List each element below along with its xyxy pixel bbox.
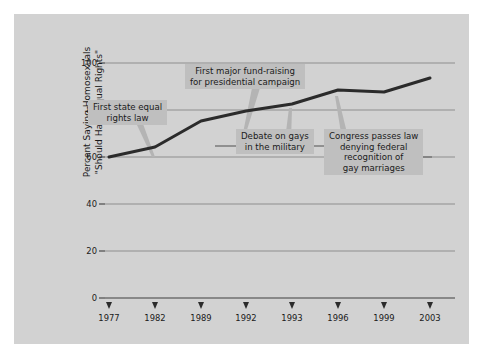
x-tick-label-1977: 1977	[89, 313, 129, 323]
annotation-line: recognition of	[329, 152, 418, 163]
x-tick-marks	[106, 302, 433, 309]
annotation-line: First major fund-raising	[190, 66, 300, 77]
y-tick-label-20: 20	[73, 246, 97, 256]
x-tick-label-1999: 1999	[364, 313, 404, 323]
annotation-first-state-equal-rights-law: First state equal rights law	[88, 100, 167, 125]
annotation-debate-on-gays-in-the-military: Debate on gays in the military	[236, 129, 314, 154]
annotation-line: Congress passes law	[329, 131, 418, 142]
chart-figure: 100 80 60 40 20 0 Percent Saying Homosex…	[0, 0, 482, 357]
annotation-congress-passes-law: Congress passes law denying federal reco…	[324, 129, 423, 175]
chart-plot-area	[0, 0, 482, 357]
x-tick-label-1992: 1992	[226, 313, 266, 323]
y-tick-label-40: 40	[73, 199, 97, 209]
annotation-line: rights law	[93, 113, 162, 124]
x-tick-label-1996: 1996	[318, 313, 358, 323]
annotation-line: for presidential campaign	[190, 77, 300, 88]
annotation-line: First state equal	[93, 102, 162, 113]
x-tick-label-1993: 1993	[272, 313, 312, 323]
annotation-line: in the military	[241, 142, 309, 153]
x-tick-label-1989: 1989	[181, 313, 221, 323]
x-tick-label-1982: 1982	[135, 313, 175, 323]
annotation-line: Debate on gays	[241, 131, 309, 142]
annotation-line: gay marriages	[329, 163, 418, 174]
y-tick-label-0: 0	[73, 293, 97, 303]
annotation-line: denying federal	[329, 142, 418, 153]
annotation-first-major-fund-raising: First major fund-raising for presidentia…	[185, 64, 305, 89]
x-tick-label-2003: 2003	[410, 313, 450, 323]
